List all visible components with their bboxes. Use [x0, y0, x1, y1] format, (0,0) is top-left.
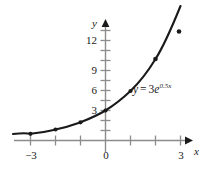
y-axis-label: y [92, 18, 97, 29]
y-axis-arrowhead [102, 19, 110, 27]
data-point [78, 120, 82, 124]
x-tick-label-neg3: −3 [19, 150, 43, 161]
x-tick-label-3: 3 [169, 150, 193, 161]
y-tick-label-3: 3 [83, 105, 97, 116]
data-point [153, 57, 158, 62]
data-point [53, 127, 57, 131]
x-axis-arrowhead [185, 137, 193, 145]
y-tick-label-9: 9 [83, 65, 97, 76]
equation-equals: = [138, 83, 149, 95]
data-point [177, 29, 182, 34]
y-tick-label-6: 6 [83, 85, 97, 96]
equation-annotation: y=3e0.5x [133, 84, 171, 96]
data-point [103, 108, 107, 112]
exponential-function-graph: y x 12 9 6 3 −3 0 3 y=3e0.5x [0, 0, 208, 173]
equation-exponent: 0.5x [159, 82, 171, 90]
y-tick-label-12: 12 [83, 35, 97, 46]
data-point [128, 89, 132, 93]
x-axis-label: x [194, 146, 199, 157]
x-tick-label-0: 0 [94, 150, 118, 161]
data-point [28, 132, 32, 136]
plot-canvas [0, 0, 208, 173]
